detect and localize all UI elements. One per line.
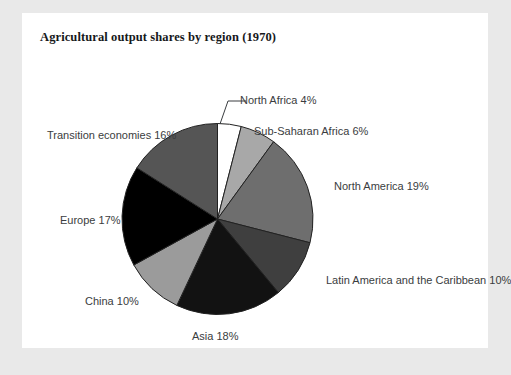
screenshot-root: Agricultural output shares by region (19… [0,0,511,375]
pie-label-north-africa: North Africa 4% [240,95,316,106]
pie-chart: North Africa 4%Sub-Saharan Africa 6%Nort… [22,13,488,348]
pie-label-sub-saharan-africa: Sub-Saharan Africa 6% [254,126,368,137]
pie-label-asia: Asia 18% [192,331,238,342]
pie-label-latin-america: Latin America and the Caribbean 10% [326,275,511,286]
pie-label-europe: Europe 17% [60,215,121,226]
pie-label-china: China 10% [85,296,139,307]
pie-label-transition-economies: Transition economies 16% [47,130,176,141]
pie-label-north-america: North America 19% [334,181,429,192]
chart-card: Agricultural output shares by region (19… [22,13,488,348]
